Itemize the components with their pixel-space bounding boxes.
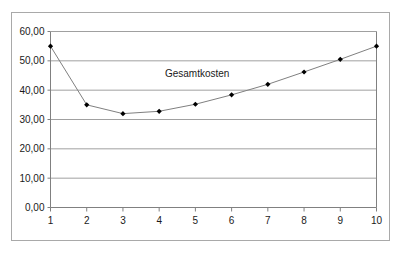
x-tick-label-3: 4 <box>156 215 162 226</box>
line-chart: 0,0010,0020,0030,0040,0050,0060,00 12345… <box>0 0 401 255</box>
x-tick-label-9: 10 <box>371 215 383 226</box>
data-point-8 <box>301 69 306 74</box>
chart-container: 0,0010,0020,0030,0040,0050,0060,00 12345… <box>0 0 401 255</box>
y-axis-tick-labels: 0,0010,0020,0030,0040,0050,0060,00 <box>19 26 44 213</box>
y-tick-label-1: 10,00 <box>19 173 44 184</box>
x-axis <box>51 32 377 212</box>
data-point-5 <box>193 102 198 107</box>
x-tick-label-7: 8 <box>301 215 307 226</box>
data-point-4 <box>157 109 162 114</box>
data-point-3 <box>120 111 125 116</box>
series-polyline-0 <box>51 46 377 113</box>
y-tick-label-5: 50,00 <box>19 55 44 66</box>
x-tick-label-0: 1 <box>48 215 54 226</box>
data-point-2 <box>84 102 89 107</box>
x-tick-label-4: 5 <box>193 215 199 226</box>
y-tick-label-6: 60,00 <box>19 26 44 37</box>
x-tick-label-1: 2 <box>84 215 90 226</box>
y-axis <box>48 32 51 208</box>
series-markers-gesamtkosten <box>48 44 379 117</box>
series-annotation-label: Gesamtkosten <box>165 68 229 79</box>
y-tick-label-3: 30,00 <box>19 114 44 125</box>
data-point-6 <box>229 92 234 97</box>
data-point-10 <box>374 44 379 49</box>
x-axis-tick-labels: 12345678910 <box>48 215 383 226</box>
data-point-7 <box>265 82 270 87</box>
y-tick-label-0: 0,00 <box>25 202 45 213</box>
gridlines-horizontal <box>51 32 377 179</box>
x-tick-label-5: 6 <box>229 215 235 226</box>
data-point-1 <box>48 44 53 49</box>
y-tick-label-2: 20,00 <box>19 143 44 154</box>
x-tick-label-6: 7 <box>265 215 271 226</box>
annotation-0: Gesamtkosten <box>165 68 229 79</box>
y-tick-label-4: 40,00 <box>19 85 44 96</box>
x-tick-label-8: 9 <box>337 215 343 226</box>
x-tick-label-2: 3 <box>120 215 126 226</box>
series-line-gesamtkosten <box>51 46 377 113</box>
